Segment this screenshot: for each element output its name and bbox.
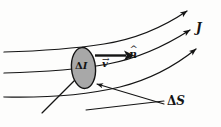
label-normal-unit-vector: ^ n — [129, 49, 137, 60]
diagram-canvas — [0, 0, 221, 127]
current-density-diagram: J ^ n → v ΔI ΔS — [0, 0, 221, 127]
delta-symbol-surface: Δ — [167, 94, 176, 108]
delta-symbol-current: Δ — [75, 60, 83, 71]
label-delta-current: ΔI — [75, 61, 87, 71]
current-quantity-letter: I — [83, 60, 88, 71]
label-delta-surface: ΔS — [167, 95, 185, 107]
velocity-arrow-accent: → — [102, 55, 110, 64]
label-velocity-vector: → v — [102, 59, 108, 69]
streamline-group — [4, 11, 196, 97]
label-current-density: J — [196, 22, 202, 34]
streamline-top — [4, 11, 187, 52]
leader-line-to-surface — [97, 84, 164, 104]
surface-quantity-letter: S — [176, 94, 185, 108]
leader-line-lower — [86, 101, 164, 110]
leader-line-group — [86, 84, 164, 110]
normal-hat-accent: ^ — [130, 44, 138, 54]
